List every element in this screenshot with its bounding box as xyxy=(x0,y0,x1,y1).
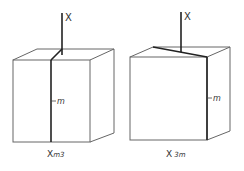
plane-label-right: m xyxy=(213,94,221,103)
cube-left xyxy=(13,49,114,142)
caption-right: X3m xyxy=(166,149,186,159)
cube-left-top-face xyxy=(13,49,114,60)
cube-right-front-face xyxy=(130,57,207,140)
crystal-symmetry-diagram: X m Xm3 X m X3m xyxy=(0,0,244,171)
cube-left-side-face xyxy=(90,49,114,142)
mirror-plane-top-left xyxy=(51,49,62,60)
mirror-plane-top-right xyxy=(153,47,207,57)
caption-left: Xm3 xyxy=(47,149,64,159)
axis-label-left: X xyxy=(65,12,72,23)
axis-label-right: X xyxy=(184,11,191,22)
plane-label-left: m xyxy=(57,97,65,106)
